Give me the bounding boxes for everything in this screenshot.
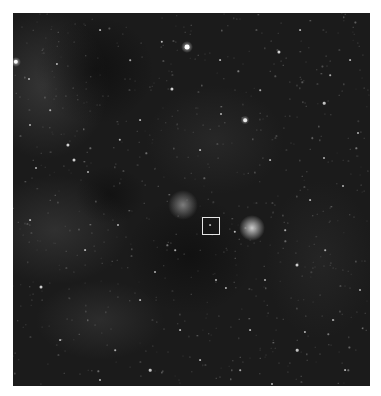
noise-speck xyxy=(23,235,24,236)
noise-speck xyxy=(308,336,309,337)
sky-image[interactable] xyxy=(13,13,370,386)
noise-speck xyxy=(45,37,46,38)
noise-speck xyxy=(154,168,155,169)
noise-speck xyxy=(303,299,304,300)
noise-speck xyxy=(301,381,302,382)
noise-speck xyxy=(47,14,48,15)
star xyxy=(99,29,101,31)
noise-speck xyxy=(305,316,306,317)
star xyxy=(357,132,359,134)
noise-speck xyxy=(353,40,354,41)
noise-speck xyxy=(216,73,217,74)
noise-speck xyxy=(211,335,212,336)
noise-speck xyxy=(215,254,216,255)
noise-speck xyxy=(262,33,263,34)
noise-speck xyxy=(75,24,76,25)
noise-speck xyxy=(239,318,240,319)
noise-speck xyxy=(359,174,360,175)
noise-speck xyxy=(176,25,177,26)
noise-speck xyxy=(31,305,32,306)
noise-speck xyxy=(138,164,139,165)
noise-speck xyxy=(124,79,125,80)
noise-speck xyxy=(289,116,290,117)
noise-speck xyxy=(342,269,343,270)
selection-box[interactable] xyxy=(202,217,220,235)
noise-speck xyxy=(359,46,360,47)
noise-speck xyxy=(266,304,267,305)
noise-speck xyxy=(307,359,308,360)
noise-speck xyxy=(348,370,349,371)
noise-speck xyxy=(350,287,351,288)
noise-speck xyxy=(333,319,334,320)
noise-speck xyxy=(363,138,364,139)
noise-speck xyxy=(138,281,139,282)
noise-speck xyxy=(42,327,43,328)
noise-speck xyxy=(55,243,56,244)
noise-speck xyxy=(223,78,224,79)
star xyxy=(344,369,346,371)
noise-speck xyxy=(223,13,224,14)
star xyxy=(56,63,58,65)
noise-speck xyxy=(234,57,235,58)
noise-speck xyxy=(251,289,252,290)
noise-speck xyxy=(360,131,361,132)
noise-speck xyxy=(14,373,15,374)
noise-speck xyxy=(69,230,70,231)
noise-speck xyxy=(146,153,147,154)
noise-speck xyxy=(200,250,201,251)
noise-speck xyxy=(230,327,231,328)
noise-speck xyxy=(59,269,60,270)
noise-speck xyxy=(362,328,363,329)
noise-speck xyxy=(28,99,29,100)
noise-speck xyxy=(213,202,214,203)
noise-speck xyxy=(352,27,353,28)
star xyxy=(87,171,89,173)
noise-speck xyxy=(211,192,212,193)
noise-speck xyxy=(142,181,143,182)
noise-speck xyxy=(202,365,203,366)
noise-speck xyxy=(248,246,249,247)
noise-speck xyxy=(57,32,58,33)
star xyxy=(359,289,361,291)
noise-speck xyxy=(76,131,77,132)
noise-speck xyxy=(108,306,109,307)
noise-speck xyxy=(273,342,274,343)
noise-speck xyxy=(286,150,287,151)
noise-speck xyxy=(288,371,289,372)
noise-speck xyxy=(297,300,298,301)
noise-speck xyxy=(301,176,302,177)
noise-speck xyxy=(140,42,141,43)
noise-speck xyxy=(37,146,38,147)
star xyxy=(296,349,299,352)
noise-speck xyxy=(85,264,86,265)
noise-speck xyxy=(114,167,115,168)
noise-speck xyxy=(184,320,185,321)
star xyxy=(99,379,101,381)
noise-speck xyxy=(21,305,22,306)
noise-speck xyxy=(92,232,93,233)
noise-speck xyxy=(304,179,305,180)
noise-speck xyxy=(348,160,349,161)
noise-speck xyxy=(239,19,240,20)
noise-speck xyxy=(305,62,306,63)
noise-speck xyxy=(215,328,216,329)
noise-speck xyxy=(171,71,172,72)
noise-speck xyxy=(18,222,19,223)
noise-speck xyxy=(249,51,250,52)
noise-speck xyxy=(357,189,358,190)
noise-speck xyxy=(41,290,42,291)
noise-speck xyxy=(101,280,102,281)
noise-speck xyxy=(235,287,236,288)
noise-speck xyxy=(280,261,281,262)
noise-speck xyxy=(27,223,28,224)
noise-speck xyxy=(55,195,56,196)
noise-speck xyxy=(364,260,365,261)
noise-speck xyxy=(331,206,332,207)
noise-speck xyxy=(100,74,101,75)
noise-speck xyxy=(336,183,337,184)
noise-speck xyxy=(326,56,327,57)
noise-speck xyxy=(177,110,178,111)
star xyxy=(66,143,69,146)
noise-speck xyxy=(184,26,185,27)
noise-speck xyxy=(56,344,57,345)
